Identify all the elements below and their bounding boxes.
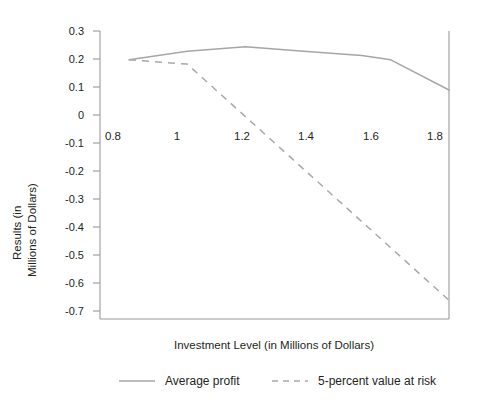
x-tick-label: 0.8 — [105, 130, 121, 142]
y-tick-label: 0 — [78, 109, 84, 121]
y-tick-label: -0.4 — [65, 221, 84, 233]
legend-label-value-at-risk: 5-percent value at risk — [318, 374, 437, 388]
x-tick-label: 1.4 — [298, 130, 315, 142]
y-tick-label: 0.1 — [69, 81, 84, 93]
y-tick-label: -0.3 — [65, 193, 84, 205]
chart-figure: Results (in Millions of Dollars) 0.3 0.2… — [0, 0, 488, 403]
y-tick-label: 0.2 — [69, 53, 84, 65]
series-value-at-risk — [129, 60, 449, 300]
y-tick-label: 0.3 — [69, 25, 84, 37]
y-axis-ticks: 0.3 0.2 0.1 0 -0.1 -0.2 -0.3 -0.4 -0.5 -… — [65, 25, 100, 317]
chart-legend: Average profit 5-percent value at risk — [119, 374, 437, 388]
x-axis-title: Investment Level (in Millions of Dollars… — [174, 339, 374, 351]
y-tick-label: -0.1 — [65, 137, 84, 149]
x-tick-label: 1.2 — [234, 130, 250, 142]
legend-label-average-profit: Average profit — [165, 374, 240, 388]
y-axis-title: Results (in Millions of Dollars) — [11, 183, 38, 277]
x-tick-label: 1 — [174, 130, 180, 142]
line-chart: Results (in Millions of Dollars) 0.3 0.2… — [0, 0, 488, 403]
y-axis-title-line2: Millions of Dollars) — [26, 183, 38, 277]
x-axis-ticks: 0.8 1 1.2 1.4 1.6 1.8 — [105, 130, 443, 142]
y-tick-label: -0.5 — [65, 249, 84, 261]
y-tick-label: -0.2 — [65, 165, 84, 177]
series-average-profit — [129, 47, 449, 90]
y-axis-title-line1: Results (in — [11, 206, 23, 260]
y-tick-label: -0.7 — [65, 305, 84, 317]
x-tick-label: 1.8 — [427, 130, 443, 142]
y-tick-label: -0.6 — [65, 277, 84, 289]
x-tick-label: 1.6 — [363, 130, 379, 142]
